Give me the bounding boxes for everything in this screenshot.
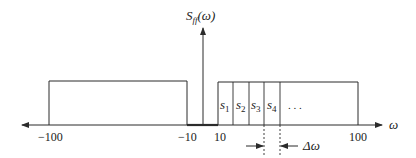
- x-axis-label: ω: [389, 117, 398, 132]
- tick-label-neg100: −100: [38, 130, 63, 144]
- tick-label-100: 100: [349, 130, 367, 144]
- diagram-canvas: Sff(ω) ω −100 −10 10 100 s1 s2 s3 s4 . .…: [0, 0, 416, 158]
- y-axis-label: Sff(ω): [186, 8, 215, 25]
- negative-band: [49, 81, 187, 125]
- segment-label-s1: s1: [220, 97, 230, 114]
- delta-omega-label: Δω: [302, 138, 320, 153]
- tick-label-10: 10: [214, 130, 226, 144]
- segment-label-s2: s2: [236, 97, 246, 114]
- power-spectrum-diagram: Sff(ω) ω −100 −10 10 100 s1 s2 s3 s4 . .…: [0, 0, 416, 158]
- tick-label-neg10: −10: [178, 130, 197, 144]
- segment-label-s4: s4: [267, 97, 277, 114]
- segment-ellipsis: . . .: [288, 99, 302, 111]
- segment-label-s3: s3: [251, 97, 261, 114]
